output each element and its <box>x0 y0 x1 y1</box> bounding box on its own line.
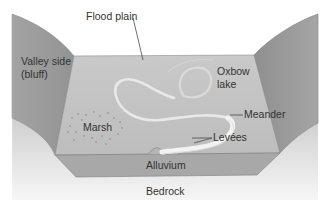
label-oxbow-line1: Oxbow <box>217 65 250 77</box>
edge-fade <box>0 0 14 215</box>
label-alluvium: Alluvium <box>146 159 186 171</box>
label-meander: Meander <box>244 108 286 120</box>
label-levees: Levées <box>213 131 247 143</box>
flood-plain-diagram: Flood plain Valley side (bluff) Oxbow la… <box>0 0 327 215</box>
label-oxbow-line2: lake <box>217 78 236 90</box>
label-valley-side-line2: (bluff) <box>21 68 48 80</box>
label-marsh: Marsh <box>83 121 112 133</box>
label-flood-plain: Flood plain <box>86 10 138 22</box>
label-valley-side-line1: Valley side <box>21 55 71 67</box>
flood-plain-leader <box>133 18 143 60</box>
label-bedrock: Bedrock <box>146 185 185 197</box>
